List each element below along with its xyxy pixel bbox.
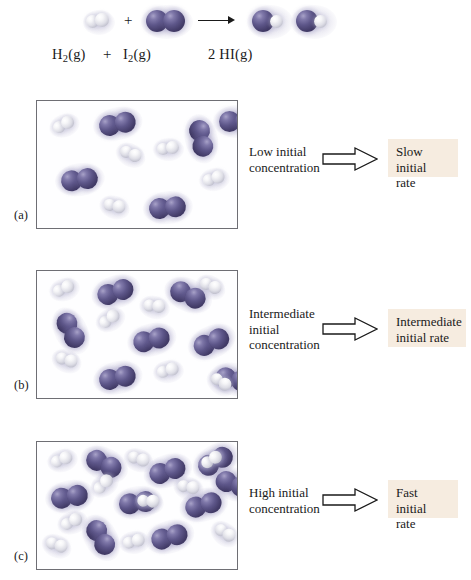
hydrogen-atom — [166, 141, 179, 154]
h2-molecule — [42, 534, 71, 560]
rate-line: rate — [396, 175, 451, 191]
condition-line: Low initial — [249, 144, 324, 160]
h2-molecule — [116, 142, 145, 169]
reaction-equation: + H2(g) + I2(g) — [0, 0, 471, 92]
panel-row-a: (a) Low initial concentration Slow initi… — [0, 100, 471, 230]
hi-symbol: HI — [219, 46, 235, 62]
h2-molecule-reactant — [86, 12, 112, 32]
condition-line: Intermediate — [249, 306, 329, 322]
rate-line: Slow initial — [396, 144, 451, 175]
block-arrow-right-icon — [322, 146, 378, 172]
h2-molecule — [135, 492, 162, 514]
panel-label-c: (c) — [14, 549, 28, 564]
molecule-box-a — [36, 100, 238, 229]
h2-molecule — [202, 169, 229, 190]
h2-molecule — [122, 533, 148, 552]
hi-state: (g) — [235, 46, 253, 62]
condition-line: concentration — [249, 501, 327, 517]
condition-label-c: High initial concentration — [249, 485, 327, 516]
condition-line: concentration — [249, 337, 329, 353]
panel-row-c: (c) High initial concentration Fast init… — [0, 441, 471, 571]
h2-molecule — [96, 306, 125, 332]
i2-molecule — [94, 273, 140, 310]
rate-line: initial rate — [396, 330, 459, 346]
panel-label-a: (a) — [14, 208, 28, 223]
formula-plus-sign: + — [103, 46, 112, 63]
h2-molecule — [210, 520, 238, 548]
i2-molecule — [97, 107, 142, 141]
hydrogen-atom — [314, 15, 327, 28]
hydrogen-atom — [270, 15, 283, 28]
block-arrow-right-icon — [322, 487, 378, 513]
h2-state: (g) — [68, 46, 86, 62]
h2-molecule — [51, 113, 79, 137]
condition-label-b: Intermediate initial concentration — [249, 306, 329, 353]
i2-state: (g) — [133, 46, 151, 62]
block-arrow-right-icon — [322, 316, 378, 342]
h2-molecule — [49, 449, 76, 471]
panel-row-b: (b) Intermediate initial concentration I… — [0, 270, 471, 400]
h2-molecule — [125, 448, 154, 473]
equation-formula-labels: H2(g) + I2(g) 2 HI(g) — [0, 46, 471, 76]
h2-molecule — [51, 278, 79, 301]
product-hi-label: 2 HI(g) — [208, 46, 253, 63]
h2-molecule — [157, 141, 181, 158]
hi-coefficient: 2 — [208, 46, 215, 62]
i2-molecule — [49, 481, 93, 514]
h2-molecule — [101, 195, 129, 219]
i2-molecule — [219, 109, 238, 135]
i2-molecule-reactant — [146, 8, 188, 36]
h2-symbol: H — [52, 46, 63, 62]
rate-result-box-b: Intermediate initial rate — [388, 309, 466, 347]
molecule-field-c — [37, 442, 237, 569]
reactant-h2-label: H2(g) — [52, 46, 86, 64]
rate-line: Intermediate — [396, 314, 459, 330]
iodine-atom — [163, 10, 185, 32]
i2-molecule — [97, 361, 142, 395]
panel-label-b: (b) — [14, 378, 29, 393]
i2-molecule — [130, 323, 175, 358]
hi-molecule-product — [252, 8, 288, 36]
rate-result-box-a: Slow initial rate — [388, 139, 458, 177]
i2-molecule — [59, 164, 102, 195]
h2-molecule — [156, 361, 182, 381]
reaction-arrow-icon — [198, 14, 238, 28]
i2-molecule — [148, 519, 194, 555]
rate-result-box-c: Fast initial rate — [388, 480, 458, 518]
reactant-i2-label: I2(g) — [123, 46, 151, 64]
molecule-box-b — [36, 270, 238, 399]
i2-molecule — [148, 193, 190, 223]
hi-molecule-product — [296, 8, 332, 36]
condition-line: initial — [249, 322, 329, 338]
rate-line: Fast initial — [396, 485, 451, 516]
condition-label-a: Low initial concentration — [249, 144, 324, 175]
rate-line: rate — [396, 516, 451, 532]
i2-molecule — [189, 322, 236, 362]
equation-molecule-row: + — [0, 2, 471, 42]
i2-molecule — [50, 308, 92, 356]
condition-line: High initial — [249, 485, 327, 501]
molecule-field-b — [37, 271, 237, 398]
molecule-field-a — [37, 101, 237, 228]
equation-plus-sign: + — [124, 12, 132, 29]
h2-molecule — [141, 296, 168, 318]
h2-molecule — [175, 477, 203, 501]
molecule-box-c — [36, 441, 238, 570]
condition-line: concentration — [249, 160, 324, 176]
hydrogen-atom — [95, 13, 109, 27]
